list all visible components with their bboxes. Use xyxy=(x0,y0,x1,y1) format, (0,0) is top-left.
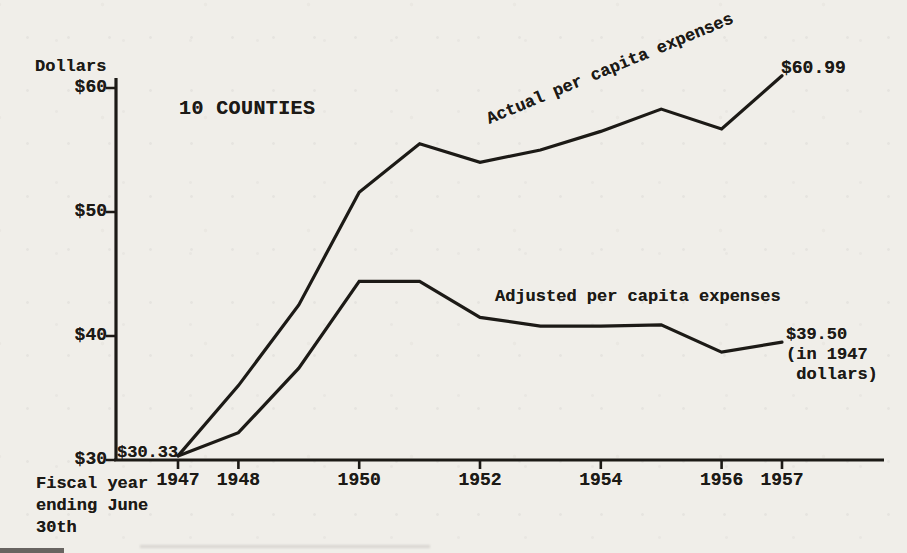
x-tick-label-1954: 1954 xyxy=(579,470,622,490)
start-value-annotation: $30.33 xyxy=(117,443,178,463)
y-tick-label-60-dollars: $60 xyxy=(30,77,107,97)
scan-edge-artifact xyxy=(0,548,64,553)
adjusted-line xyxy=(178,281,782,456)
actual-end-annotation: $60.99 xyxy=(781,58,846,79)
y-tick-label-50-dollars: $50 xyxy=(30,201,107,221)
x-tick-label-1956: 1956 xyxy=(700,470,743,490)
scan-streak-artifact xyxy=(140,545,430,548)
page-title: 10 COUNTIES xyxy=(179,97,315,121)
y-tick-label-40-dollars: $40 xyxy=(30,325,107,345)
x-tick-label-1952: 1952 xyxy=(458,470,501,490)
x-axis-caption: Fiscal year ending June 30th xyxy=(36,473,148,539)
x-tick-label-1950: 1950 xyxy=(338,470,381,490)
y-tick-label-30-dollars: $30 xyxy=(30,449,107,469)
x-tick-label-1948: 1948 xyxy=(217,470,260,490)
y-axis-label: Dollars xyxy=(35,57,106,77)
x-tick-label-1947: 1947 xyxy=(156,470,199,490)
adjusted-end-annotation: $39.50 (in 1947 dollars) xyxy=(786,325,878,385)
axis-tick-marks xyxy=(106,88,782,469)
adjusted-series-label: Adjusted per capita expenses xyxy=(495,287,781,307)
x-tick-label-1957: 1957 xyxy=(760,470,803,490)
scanned-document-page: Dollars 10 COUNTIES Actual per capita ex… xyxy=(0,0,907,553)
